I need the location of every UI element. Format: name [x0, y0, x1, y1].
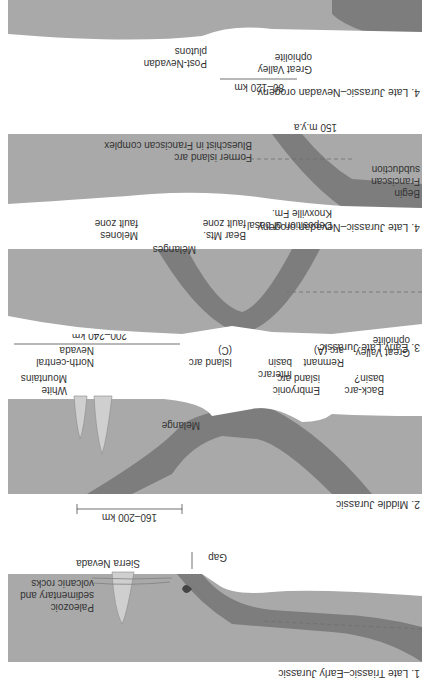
panel-3-gv-2: ophiolite: [372, 335, 410, 346]
panel-3-interarc-1: Interarc: [258, 369, 292, 380]
panel-1-paleozoic-3: volcanic rocks: [31, 578, 94, 589]
panel-3: 3. Early Late Jurassic 200–240 km Great …: [8, 249, 422, 380]
panel-3-crust: [8, 249, 422, 334]
panel-4-melanges: Mélanges: [153, 244, 196, 255]
panel-1-gap-label: Gap: [208, 552, 227, 563]
panel-5-postnev-2: plutons: [175, 46, 207, 57]
panel-1-title: 1. Late Triassic–Early Jurassic: [278, 668, 420, 680]
panel-1-paleozoic-2: sedimentary and: [20, 590, 94, 601]
panel-4-knox-2: Knoxville Fm.: [272, 208, 332, 219]
panel-4-mya: 150 m.y.a: [293, 122, 337, 133]
panel-3-ncn-2: Nevada: [59, 345, 94, 356]
panel-2-white-1: White: [41, 385, 67, 396]
panel-2: 2. Middle Jurassic 160–200 km Back-arc b…: [8, 373, 422, 523]
panel-5-scale: 80–120 km: [235, 82, 284, 93]
panel-4-knox-1: Deposition of basal: [247, 220, 332, 231]
geologic-cross-section-figure: 1. Late Triassic–Early Jurassic Gap Sier…: [0, 0, 432, 684]
panel-5-postnev-1: Post-Nevadan: [144, 58, 207, 69]
panel-4-begin-3: subduction: [372, 164, 420, 175]
panel-3-ncn-1: North-central: [36, 357, 94, 368]
panel-3-islandarc-2: (C): [218, 345, 232, 356]
panel-4-melones-1: Melones: [100, 230, 138, 241]
panel-3-islandarc-1: Island arc: [189, 357, 232, 368]
panel-4-begin-2: Franciscan: [371, 176, 420, 187]
panel-1-paleozoic-1: Paleozoic: [51, 602, 94, 613]
panel-3-gv-1: Great Valley: [356, 347, 410, 358]
panel-2-melange: Melange: [161, 420, 200, 431]
panel-4-blueschist: Blueschist in Franciscan complex: [104, 140, 252, 151]
panel-3-remnant-2: arc (A): [314, 345, 344, 356]
panel-3-interarc-2: basin: [268, 357, 292, 368]
panel-3-remnant-1: Remnant: [303, 357, 344, 368]
panel-4: 4. Late Jurassic–Nevadan orogeny Begin F…: [8, 122, 422, 255]
panel-4-bearmts-1: Bear Mts.: [203, 230, 246, 241]
panel-2-backarc-2: basin?: [354, 373, 384, 384]
panel-5-gv-1: Great Valley: [258, 64, 312, 75]
panel-2-white-2: Mountains: [21, 373, 67, 384]
panel-5-gv-2: ophiolite: [274, 52, 312, 63]
panel-4-melones-2: fault zone: [94, 218, 138, 229]
panel-2-scale: 160–200 km: [102, 512, 157, 523]
panel-2-embryonic-1: Embryonic: [273, 385, 320, 396]
panel-1: 1. Late Triassic–Early Jurassic Gap Sier…: [8, 552, 422, 680]
panel-5: 4. Late Jurassic–Nevadan orogeny 80–120 …: [8, 0, 422, 99]
panel-1-sierra-label: Sierra Nevada: [76, 558, 140, 569]
panel-2-title: 2. Middle Jurassic: [336, 499, 420, 511]
panel-2-backarc-1: Back-arc: [345, 385, 384, 396]
panel-4-begin-1: Begin: [394, 188, 420, 199]
panel-4-former: Former island arc: [174, 152, 252, 163]
panel-4-bearmts-2: fault zone: [202, 218, 246, 229]
